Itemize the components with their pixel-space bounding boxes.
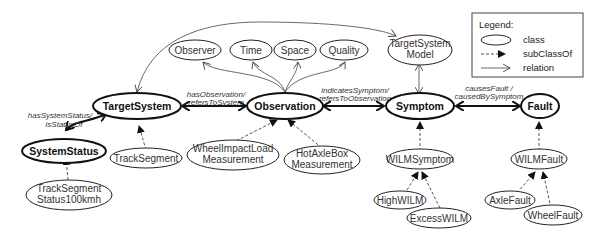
legend-class-icon (481, 35, 511, 45)
class-wheel-fault[interactable]: WheelFault (524, 205, 582, 225)
class-track-segment[interactable]: TrackSegment (110, 148, 182, 168)
svg-text:WheelFault: WheelFault (528, 210, 579, 221)
legend-title: Legend: (479, 19, 513, 30)
class-time[interactable]: Time (230, 40, 272, 60)
class-quality[interactable]: Quality (320, 40, 368, 60)
subclass-hab-meas (288, 120, 322, 148)
class-observer[interactable]: Observer (169, 40, 221, 60)
subclass-wilm-meas (232, 120, 277, 143)
svg-text:WheelImpactLoad: WheelImpactLoad (193, 143, 274, 154)
relation-observation-space (285, 62, 298, 92)
class-wilm-symptom[interactable]: WILMSymptom (386, 149, 454, 169)
svg-text:Measurement: Measurement (291, 159, 352, 170)
legend: Legend: class subClassOf relation (472, 13, 583, 77)
svg-text:TargetSystem: TargetSystem (103, 100, 172, 112)
class-target-system[interactable]: TargetSystem (93, 93, 181, 119)
svg-text:Symptom: Symptom (396, 100, 444, 112)
ontology-diagram: hasSystemStatus/ isStatusOf hasObservati… (0, 0, 604, 236)
relation-label: refersToObservation (319, 94, 392, 103)
legend-relation-label: relation (523, 62, 554, 73)
subclass-wheel-fault (543, 172, 551, 208)
svg-text:Space: Space (281, 45, 310, 56)
svg-text:SystemStatus: SystemStatus (29, 145, 99, 157)
svg-text:TargetSystem: TargetSystem (389, 38, 450, 49)
svg-text:TrackSegment: TrackSegment (114, 153, 179, 164)
svg-text:TrackSegment: TrackSegment (37, 183, 102, 194)
class-track-segment-status[interactable]: TrackSegment Status100kmh (26, 180, 112, 210)
svg-text:Quality: Quality (328, 45, 359, 56)
subclass-axle-fault (517, 172, 535, 193)
svg-text:Measurement: Measurement (202, 154, 263, 165)
class-wilm-fault[interactable]: WILMFault (511, 149, 567, 169)
svg-text:Model: Model (406, 49, 433, 60)
svg-text:Time: Time (240, 45, 262, 56)
relation-label: causedBySymptom (455, 92, 524, 101)
class-high-wilm[interactable]: HighWILM (374, 191, 426, 209)
svg-text:WILMFault: WILMFault (515, 154, 564, 165)
svg-text:HotAxleBox: HotAxleBox (296, 148, 348, 159)
subclass-high-wilm (407, 172, 418, 190)
svg-text:Observation: Observation (254, 100, 315, 112)
relation-label: hasSystemStatus/ (28, 111, 93, 120)
svg-text:WILMSymptom: WILMSymptom (386, 154, 454, 165)
class-system-status[interactable]: SystemStatus (22, 139, 106, 163)
class-wilm-measurement[interactable]: WheelImpactLoad Measurement (187, 140, 279, 170)
svg-text:ExcessWILM: ExcessWILM (410, 213, 468, 224)
class-space[interactable]: Space (274, 40, 316, 60)
svg-text:HighWILM: HighWILM (377, 195, 424, 206)
relation-label: refersToSystem (188, 98, 244, 107)
subclass-tracksegment (139, 126, 146, 150)
svg-text:Observer: Observer (174, 45, 216, 56)
class-axle-fault[interactable]: AxleFault (485, 191, 535, 209)
relation-label: isStatusOf (46, 120, 84, 129)
class-excess-wilm[interactable]: ExcessWILM (407, 208, 471, 228)
class-fault[interactable]: Fault (521, 94, 559, 118)
class-observation[interactable]: Observation (247, 93, 323, 119)
class-target-system-model[interactable]: TargetSystem Model (388, 35, 452, 65)
legend-subclass-label: subClassOf (523, 48, 572, 59)
relation-observation-observer (203, 62, 285, 92)
svg-text:Status100kmh: Status100kmh (37, 194, 101, 205)
svg-text:Fault: Fault (527, 100, 553, 112)
svg-text:AxleFault: AxleFault (489, 195, 531, 206)
class-hotaxlebox-measurement[interactable]: HotAxleBox Measurement (284, 146, 360, 174)
class-symptom[interactable]: Symptom (386, 93, 454, 119)
legend-class-label: class (523, 34, 545, 45)
